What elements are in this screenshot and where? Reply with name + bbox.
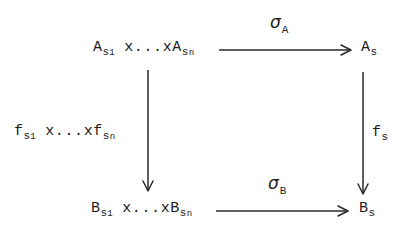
label-f-product-base: f [14,123,23,140]
node-top-right-base: A [361,39,370,56]
commutative-diagram: As1 x...xAsn As Bs1 x...xBsn Bs σA σB fs… [0,0,418,252]
node-bottom-left: Bs1 x...xBsn [91,201,192,216]
sigma-a-subscript: A [282,24,289,36]
label-f-product: fs1 x...xfsn [14,124,115,139]
sigma-glyph-a: σ [270,12,281,32]
node-top-left-middle: x...xA [115,39,182,56]
node-top-left-sub-1: 1 [109,48,114,58]
label-f-s-base: f [372,124,381,141]
label-sigma-A: σA [270,14,287,32]
node-top-left-sub-n: n [189,48,194,58]
node-bottom-right: Bs [359,201,375,216]
label-sigma-B: σB [268,175,285,193]
node-bottom-right-base: B [359,200,368,217]
label-f-product-sub-s2: s [103,130,110,142]
f-s-arrow-shape [358,72,368,194]
node-bottom-left-sub-s2: s [180,207,187,219]
label-f-product-sub-n: n [110,132,115,142]
sigma-A-arrow-shape [219,45,351,55]
node-top-left-base: A [93,39,102,56]
node-bottom-left-sub-n: n [187,209,192,219]
label-f-product-middle: x...xf [36,123,103,140]
label-f-s: fs [372,125,388,140]
node-top-left-sub-s2: s [182,46,189,58]
label-f-s-sub-s: s [381,131,388,143]
label-f-product-sub-1: 1 [30,132,35,142]
node-top-right-sub-s: s [370,46,377,58]
f-product-arrow-shape [143,70,153,191]
node-bottom-left-sub-1: 1 [107,209,112,219]
node-bottom-left-base: B [91,200,100,217]
node-top-right: As [361,40,377,55]
sigma-glyph-b: σ [268,173,279,193]
node-top-left: As1 x...xAsn [93,40,194,55]
node-bottom-right-sub-s: s [368,207,375,219]
node-bottom-left-middle: x...xB [113,200,180,217]
sigma-b-subscript: B [280,185,287,197]
sigma-B-arrow-shape [216,206,348,216]
